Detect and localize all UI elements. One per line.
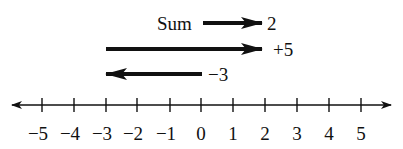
sum-vector: Sum 2 <box>157 13 277 34</box>
sum-value-label: 2 <box>267 13 277 34</box>
number-line: −5 −4 −3 −2 −1 0 1 2 3 4 5 <box>11 98 392 144</box>
tick-label: 4 <box>324 123 334 144</box>
tick-label: −3 <box>92 123 112 144</box>
tick-label: 2 <box>260 123 270 144</box>
plus5-label: +5 <box>273 39 293 60</box>
tick-label: 0 <box>196 123 206 144</box>
tick-label: −5 <box>28 123 48 144</box>
tick-label: −2 <box>123 123 143 144</box>
tick-label: 3 <box>292 123 302 144</box>
plus5-vector: +5 <box>106 39 293 60</box>
minus3-label: −3 <box>208 64 228 85</box>
tick-label: 1 <box>228 123 238 144</box>
number-line-diagram: Sum 2 +5 −3 −5 −4 <box>0 0 403 149</box>
tick-label: 5 <box>356 123 366 144</box>
tick-label: −4 <box>60 123 81 144</box>
tick-label: −1 <box>156 123 176 144</box>
sum-label: Sum <box>157 13 192 34</box>
tick-labels: −5 −4 −3 −2 −1 0 1 2 3 4 5 <box>28 123 366 144</box>
minus3-vector: −3 <box>106 64 228 85</box>
